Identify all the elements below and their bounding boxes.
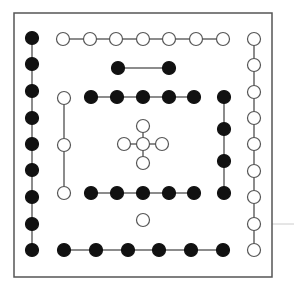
white-node-CT[interactable] [137,120,150,133]
black-node-D4[interactable] [153,244,166,257]
white-node-R2[interactable] [248,59,261,72]
white-node-W1[interactable] [137,214,150,227]
black-node-K1[interactable] [218,91,231,104]
white-node-CL[interactable] [118,138,131,151]
white-node-T3[interactable] [110,33,123,46]
black-node-L2[interactable] [26,58,39,71]
black-node-A5[interactable] [188,91,201,104]
white-node-R9[interactable] [248,244,261,257]
white-node-R7[interactable] [248,191,261,204]
white-node-C0[interactable] [137,138,150,151]
black-node-B2[interactable] [111,187,124,200]
white-node-R1[interactable] [248,33,261,46]
black-node-D6[interactable] [217,244,230,257]
black-node-A1[interactable] [85,91,98,104]
white-node-V1[interactable] [58,92,71,105]
white-node-T5[interactable] [163,33,176,46]
black-node-D3[interactable] [122,244,135,257]
white-node-CR[interactable] [156,138,169,151]
white-node-R5[interactable] [248,138,261,151]
black-node-L9[interactable] [26,244,39,257]
white-node-T7[interactable] [217,33,230,46]
black-node-L8[interactable] [26,218,39,231]
black-node-L5[interactable] [26,138,39,151]
black-node-D1[interactable] [58,244,71,257]
black-node-L6[interactable] [26,164,39,177]
black-node-K4[interactable] [218,187,231,200]
black-node-A3[interactable] [137,91,150,104]
white-node-T2[interactable] [84,33,97,46]
black-node-A4[interactable] [163,91,176,104]
white-node-CB[interactable] [137,157,150,170]
black-node-K2[interactable] [218,123,231,136]
white-node-R3[interactable] [248,86,261,99]
white-node-T1[interactable] [57,33,70,46]
white-node-T6[interactable] [190,33,203,46]
white-node-T4[interactable] [137,33,150,46]
black-node-K3[interactable] [218,155,231,168]
white-node-R4[interactable] [248,112,261,125]
white-node-R6[interactable] [248,165,261,178]
puzzle-board [0,0,294,292]
black-node-A2[interactable] [111,91,124,104]
white-node-R8[interactable] [248,218,261,231]
black-node-L4[interactable] [26,112,39,125]
black-node-B1[interactable] [85,187,98,200]
white-node-V2[interactable] [58,139,71,152]
black-node-L7[interactable] [26,191,39,204]
black-node-D5[interactable] [185,244,198,257]
black-node-S1[interactable] [112,62,125,75]
black-node-L3[interactable] [26,85,39,98]
black-node-B5[interactable] [188,187,201,200]
black-node-D2[interactable] [90,244,103,257]
white-node-V3[interactable] [58,187,71,200]
black-node-B3[interactable] [137,187,150,200]
black-node-B4[interactable] [163,187,176,200]
black-node-S2[interactable] [163,62,176,75]
black-node-L1[interactable] [26,32,39,45]
node-layer [26,32,261,257]
